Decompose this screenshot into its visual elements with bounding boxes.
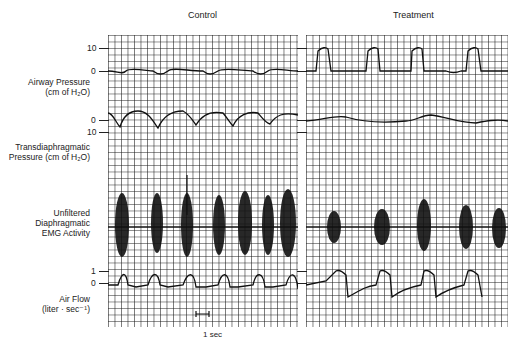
- label-airway-pressure: Airway Pressure (cm of H₂O): [28, 77, 90, 97]
- tick-flow-0: 0: [91, 278, 96, 288]
- tick-trans-0: 0: [91, 115, 96, 125]
- tick-trans-10: 10: [87, 127, 96, 137]
- label-transdiaphragmatic: Transdiaphragmatic Pressure (cm of H₂O): [9, 142, 90, 162]
- panel-title-control: Control: [188, 10, 217, 20]
- scale-bar-label: 1 sec: [203, 330, 222, 339]
- tick-airway-0: 0: [91, 66, 96, 76]
- panel-title-treatment: Treatment: [393, 10, 434, 20]
- label-air-flow: Air Flow (liter · sec⁻¹): [42, 294, 90, 314]
- control-panel: [108, 35, 298, 327]
- control-recording: [108, 35, 298, 327]
- treatment-recording: [306, 35, 508, 327]
- tick-flow-1: 1: [91, 266, 96, 276]
- tick-airway-10: 10: [87, 43, 96, 53]
- treatment-panel: [306, 35, 508, 327]
- label-emg: Unfiltered Diaphragmatic EMG Activity: [35, 208, 90, 238]
